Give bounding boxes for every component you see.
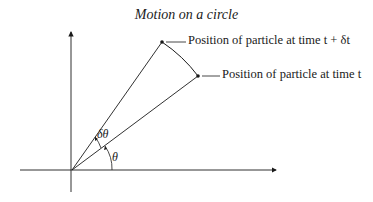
circle-motion-diagram (0, 0, 373, 202)
label-delta-theta: δθ (97, 127, 108, 142)
label-position-now: Position of particle at time t (222, 67, 361, 82)
label-position-later: Position of particle at time t + δt (188, 33, 350, 48)
theta-arc (105, 146, 112, 170)
point-later-dot (160, 40, 164, 44)
label-theta: θ (112, 150, 118, 165)
radius-now (72, 76, 198, 170)
point-now-dot (196, 74, 200, 78)
